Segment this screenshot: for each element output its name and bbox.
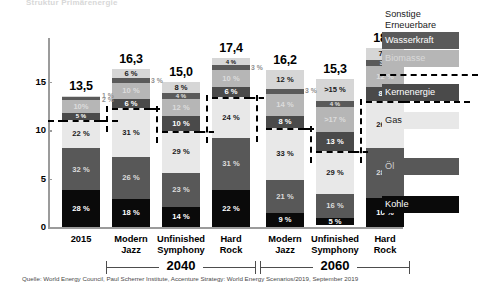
reference-dash-line <box>360 99 362 163</box>
legend-item[interactable]: Gas <box>382 112 459 129</box>
bracket-cap <box>106 261 107 274</box>
segment-value-label: 10% <box>73 103 88 111</box>
year-group-bracket: 2040 <box>106 258 256 276</box>
bar-segment[interactable]: 31 % <box>112 108 150 157</box>
bar-segment[interactable]: 6 % <box>112 69 150 78</box>
legend-item[interactable]: Biomasse <box>382 50 459 67</box>
legend-item[interactable]: Kernenergie <box>382 84 459 101</box>
segment-value-label: >17 % <box>324 116 346 124</box>
legend-label: Kohle <box>385 199 409 210</box>
year-group-label: 2060 <box>305 258 365 273</box>
legend-label: Gas <box>385 115 402 126</box>
reference-dash-line <box>106 106 108 131</box>
bar-segment[interactable]: 12 % <box>266 70 304 89</box>
y-tick-label: 15 <box>30 76 46 87</box>
segment-value-label: 6 % <box>124 70 137 78</box>
segment-value-label: 14 % <box>172 213 189 221</box>
bar-segment[interactable]: 33 % <box>266 128 304 180</box>
bar-segment[interactable]: 28 % <box>62 190 100 227</box>
bar-segment[interactable]: 10 % <box>212 70 250 87</box>
bar-segment[interactable]: 24 % <box>212 97 250 137</box>
segment-value-label: 26 % <box>122 174 139 182</box>
bar-segment[interactable]: 23 % <box>162 173 200 206</box>
bar-segment[interactable]: 12 % <box>162 99 200 116</box>
bar-segment[interactable]: 32 % <box>62 148 100 190</box>
segment-value-label: 31 % <box>222 160 239 168</box>
reference-dash-line <box>100 120 118 122</box>
y-axis-line <box>48 38 50 228</box>
legend: Sonstige ErneuerbareWasserkraftBiomasseK… <box>382 6 478 220</box>
segment-value-label: 4 % <box>226 59 236 65</box>
bar-segment[interactable]: 8 % <box>266 116 304 129</box>
bar-total-label: 17,4 <box>201 41 261 55</box>
bar-segment[interactable]: 29 % <box>162 131 200 173</box>
legend-item[interactable]: Öl <box>382 158 459 175</box>
segment-value-label: 31 % <box>122 129 139 137</box>
y-tick-mark <box>48 130 52 132</box>
bracket-cap <box>255 261 256 274</box>
bar-segment[interactable]: 31 % <box>212 138 250 190</box>
bar-segment[interactable]: 29 % <box>316 151 354 194</box>
plot-area: 151050 10%5 %22 %32 %28 %13,56 %10 %6 %3… <box>30 14 375 228</box>
bar-segment[interactable]: 16 % <box>316 194 354 218</box>
bar-segment[interactable]: 26 % <box>112 157 150 198</box>
segment-value-label: 33 % <box>276 150 293 158</box>
year-group-label: 2040 <box>151 258 211 273</box>
bar-segment[interactable]: 6 % <box>112 99 150 108</box>
segment-value-label: 23 % <box>172 186 189 194</box>
segment-value-label: 10 % <box>122 87 139 95</box>
bar-column[interactable]: 12 %14 %8 %33 %21 %9 % <box>266 70 304 227</box>
bar-segment[interactable]: 13 % <box>316 132 354 151</box>
bar-segment[interactable]: 10 % <box>112 83 150 99</box>
bracket-cap <box>260 261 261 274</box>
bar-column[interactable]: 10%5 %22 %32 %28 % <box>62 96 100 227</box>
bar-segment[interactable]: 9 % <box>266 213 304 227</box>
x-axis-line <box>48 227 403 229</box>
reference-dash-line <box>304 128 314 130</box>
chart-headline: Struktur Primärenergie <box>26 0 226 8</box>
bar-segment[interactable]: 8 % <box>162 82 200 94</box>
bar-column[interactable]: 6 %10 %6 %31 %26 %18 % <box>112 69 150 227</box>
bar-segment[interactable]: 14 % <box>266 94 304 116</box>
segment-value-label: 10 % <box>222 75 239 83</box>
segment-value-label: 6 % <box>224 88 237 96</box>
segment-value-label: 8 % <box>174 84 187 92</box>
bar-segment[interactable]: 4 % <box>212 58 250 65</box>
legend-item[interactable]: Sonstige Erneuerbare <box>382 8 459 32</box>
bar-segment[interactable]: 18 % <box>112 199 150 227</box>
bracket-cap <box>409 261 410 274</box>
legend-item[interactable]: Wasserkraft <box>382 32 459 49</box>
segment-value-label-outside: 3 % <box>151 77 163 84</box>
segment-value-label: 8 % <box>278 118 291 126</box>
bar-segment[interactable]: 22 % <box>212 190 250 227</box>
bar-segment[interactable]: 10% <box>62 100 100 113</box>
segment-value-label: 10 % <box>172 120 189 128</box>
bar-segment[interactable]: 6 % <box>212 87 250 97</box>
segment-value-label: >15 % <box>324 86 346 94</box>
segment-value-label: 5 % <box>328 218 341 226</box>
year-group-bracket: 2060 <box>260 258 410 276</box>
bar-column[interactable]: 4 %10 %6 %24 %31 %22 % <box>212 58 250 227</box>
bar-segment[interactable]: >15 % <box>316 79 354 101</box>
bar-segment[interactable]: 14 % <box>162 207 200 227</box>
bar-column[interactable]: 8 %4 %12 %10 %29 %23 %14 % <box>162 82 200 227</box>
legend-label: Wasserkraft <box>385 35 434 46</box>
bar-segment[interactable]: 21 % <box>266 180 304 213</box>
segment-value-label-outside: 3 % <box>251 64 263 71</box>
bar-segment[interactable]: 5 % <box>316 218 354 225</box>
segment-value-label: 12 % <box>276 76 293 84</box>
bar-segment[interactable]: >17 % <box>316 107 354 132</box>
legend-label: Sonstige Erneuerbare <box>385 9 436 30</box>
reference-dash-line <box>112 108 150 110</box>
segment-value-label: 29 % <box>326 169 343 177</box>
bar-segment[interactable]: 10 % <box>162 116 200 131</box>
segment-value-label: 16 % <box>326 202 343 210</box>
reference-dash-line <box>310 126 312 163</box>
legend-item[interactable]: Kohle <box>382 196 459 213</box>
segment-value-label: 6 % <box>124 100 137 108</box>
bar-total-label: 15,3 <box>305 62 365 76</box>
bar-segment[interactable]: 22 % <box>62 120 100 149</box>
segment-value-label: 32 % <box>72 166 89 174</box>
reference-dash-line <box>266 128 304 130</box>
reference-dash-line <box>316 151 354 153</box>
